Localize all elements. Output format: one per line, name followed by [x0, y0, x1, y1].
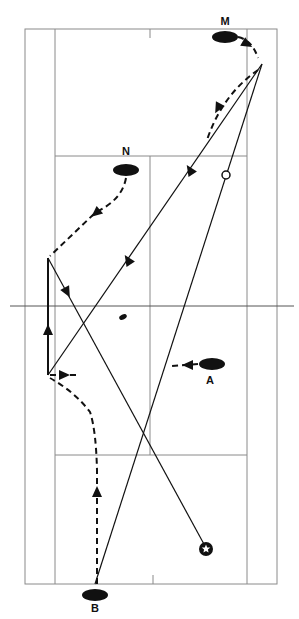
players — [82, 31, 238, 601]
player-b-marker — [82, 589, 108, 601]
player-b-label: B — [91, 603, 99, 614]
shuttlecock-icon — [118, 313, 127, 321]
arrowhead-icon — [43, 324, 53, 335]
player-m-marker — [212, 31, 238, 43]
player-n-label: N — [122, 146, 130, 157]
arrowhead-icon — [59, 370, 70, 380]
n-move-dashed-path — [50, 178, 126, 256]
shuttle-trajectories — [43, 64, 262, 584]
player-a-label: A — [206, 375, 214, 386]
arrowhead-icon — [121, 252, 135, 267]
m-move-1-dashed-path — [238, 37, 258, 58]
arrowhead-icon — [183, 162, 197, 177]
badminton-court — [10, 29, 294, 584]
b-move-dashed-path — [50, 378, 97, 584]
court-diagram — [0, 0, 299, 619]
arrowhead-icon — [182, 360, 193, 370]
shot-1-line — [95, 64, 262, 584]
arrowhead-icon — [92, 486, 102, 497]
shot-2-line — [48, 64, 262, 375]
player-a-marker — [199, 358, 225, 370]
player-n-marker — [113, 164, 139, 176]
player-movements — [50, 37, 258, 584]
player-m-label: M — [220, 16, 229, 27]
arrowhead-icon — [60, 285, 74, 299]
open-circle-icon — [222, 171, 230, 179]
shot-4-line — [48, 258, 205, 546]
